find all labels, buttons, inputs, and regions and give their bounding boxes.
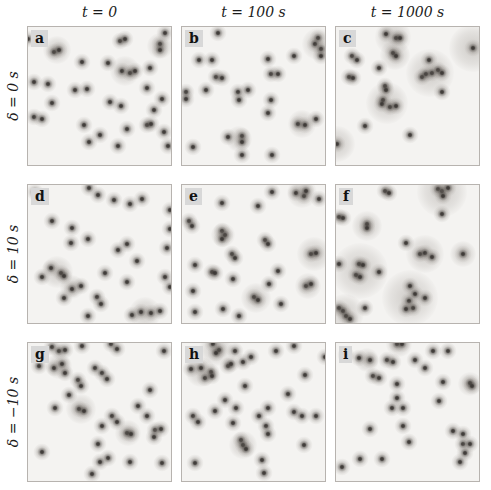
panel-label-h: h [185, 346, 203, 363]
particle-dot [98, 370, 115, 387]
particle-dot [118, 273, 135, 290]
panel-label-a: a [31, 30, 48, 47]
particle-dot [308, 408, 325, 425]
particle-dot [154, 455, 171, 472]
panel-h: h [181, 342, 326, 482]
particle-dot [226, 250, 243, 267]
particle-dot [352, 450, 369, 467]
panel-a: a [27, 26, 172, 166]
panel-i: i [335, 342, 480, 482]
particle-dot [134, 190, 151, 207]
particle-dot [44, 212, 61, 229]
particle-dot [373, 450, 390, 467]
panel-grid: a b c d e f g h i [27, 26, 480, 482]
figure: t = 0 t = 100 s t = 1000 s δ = 0 s δ = 1… [0, 0, 491, 490]
particle-dot [295, 437, 312, 454]
panel-label-e: e [185, 188, 202, 205]
particle-dot [214, 70, 231, 87]
particle-dot [435, 373, 452, 390]
particle-dot [465, 39, 480, 56]
particle-dot [342, 310, 359, 324]
particle-dot [75, 116, 92, 133]
particle-dot [285, 342, 302, 354]
particle-dot [395, 399, 412, 416]
particle-dot [370, 263, 387, 280]
particle-dot [255, 464, 272, 481]
particle-dot [84, 466, 101, 482]
particle-dot [312, 47, 326, 64]
particle-dot [435, 188, 452, 205]
particle-dot [155, 343, 172, 360]
particle-dot [122, 426, 139, 443]
panel-g: g [27, 342, 172, 482]
particle-dot [268, 343, 285, 360]
particle-dot [151, 42, 168, 59]
particle-dot [161, 221, 172, 238]
col-header-t0: t = 0 [27, 0, 172, 24]
particle-dot [423, 248, 440, 265]
particle-dot [110, 137, 127, 154]
particle-dot [141, 60, 158, 77]
particle-dot [345, 70, 362, 87]
particle-dot [370, 369, 387, 386]
particle-dot [430, 392, 447, 409]
particle-dot [395, 417, 412, 434]
particle-dot [92, 295, 109, 312]
col-header-t100: t = 100 s [181, 0, 326, 24]
particle-dot [110, 241, 127, 258]
particle-dot [34, 111, 51, 128]
particle-dot [209, 26, 226, 41]
particle-dot [74, 53, 91, 70]
particle-dot [398, 301, 415, 318]
particle-dot [161, 201, 172, 218]
particle-dot [242, 348, 259, 365]
panel-b: b [181, 26, 326, 166]
particle-dot [302, 276, 319, 293]
particle-dot [433, 64, 450, 81]
row-header-delta-0: δ = 0 s [0, 26, 26, 166]
particle-dot [259, 104, 276, 121]
particle-dot [121, 453, 138, 470]
particle-dot [439, 343, 456, 360]
panel-label-f: f [339, 188, 353, 205]
particle-dot [362, 351, 379, 368]
col-header-t1000: t = 1000 s [335, 0, 480, 24]
particle-dot [186, 455, 203, 472]
particle-dot [74, 342, 91, 354]
particle-dot [231, 308, 248, 324]
particle-dot [249, 197, 266, 214]
particle-dot [214, 230, 231, 247]
particle-dot [238, 441, 255, 458]
particle-dot [47, 399, 64, 416]
particle-dot [206, 265, 223, 282]
panel-c: c [335, 26, 480, 166]
particle-dot [151, 302, 168, 319]
particle-dot [158, 240, 172, 257]
particle-dot [214, 194, 231, 211]
particle-dot [317, 348, 327, 365]
particle-dot [402, 126, 419, 143]
column-headers: t = 0 t = 100 s t = 1000 s [27, 0, 480, 24]
particle-dot [234, 147, 251, 164]
particle-dot [112, 97, 129, 114]
particle-dot [356, 299, 373, 316]
particle-dot [352, 269, 369, 286]
particle-dot [206, 402, 223, 419]
particle-dot [128, 252, 145, 269]
panel-d: d [27, 184, 172, 324]
particle-dot [279, 386, 296, 403]
particle-dot [362, 420, 379, 437]
particle-dot [385, 354, 402, 371]
particle-dot [185, 139, 202, 156]
particle-dot [261, 276, 278, 293]
particle-dot [198, 82, 215, 99]
particle-dot [141, 381, 158, 398]
particle-dot [189, 413, 206, 430]
particle-dot [388, 47, 405, 64]
particle-dot [40, 75, 57, 92]
row-header-delta-minus-10: δ = −10 s [0, 342, 26, 482]
particle-dot [44, 94, 61, 111]
particle-dot [186, 303, 203, 320]
particle-dot [272, 295, 289, 312]
particle-dot [138, 79, 155, 96]
